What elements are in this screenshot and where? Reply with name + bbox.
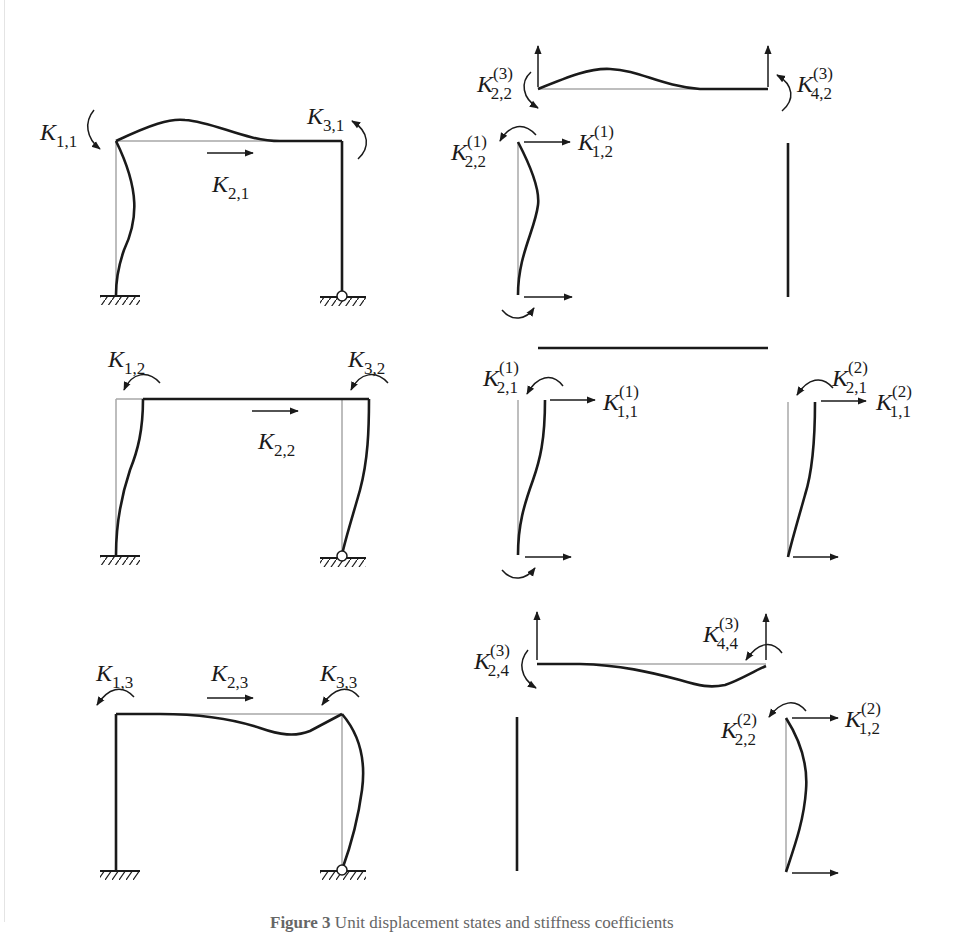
label-k21-1: K(1)2,1 bbox=[482, 358, 519, 397]
moment-arrow-icon bbox=[352, 121, 366, 159]
label-k42-3: K(3)4,2 bbox=[796, 64, 833, 103]
label-k22-3: K(3)2,2 bbox=[476, 64, 513, 103]
label-k12: K1,2 bbox=[107, 346, 145, 378]
label-k21: K2,1 bbox=[211, 171, 249, 203]
moment-arrow-icon bbox=[502, 308, 534, 318]
members-state-1: K(3)2,2 K(3)4,2 K(1)2,2 K(1)1,2 bbox=[450, 46, 833, 318]
pinned-support-icon bbox=[320, 291, 366, 306]
moment-arrow-icon bbox=[769, 703, 806, 717]
fixed-support-icon bbox=[100, 556, 140, 565]
label-k21-2: K(2)2,1 bbox=[831, 358, 868, 397]
moment-arrow-icon bbox=[524, 72, 538, 108]
moment-arrow-icon bbox=[797, 380, 833, 395]
label-k22-2: K(2)2,2 bbox=[720, 710, 757, 749]
pinned-support-icon bbox=[320, 865, 366, 880]
moment-arrow-icon bbox=[500, 127, 536, 141]
label-k12-1: K(1)1,2 bbox=[577, 122, 614, 161]
label-k24-3: K(3)2,4 bbox=[473, 641, 510, 680]
figure-caption: Figure 3 Unit displacement states and st… bbox=[270, 913, 674, 933]
moment-arrow-icon bbox=[777, 75, 791, 111]
frame-state-2: K1,2 K2,2 K3,2 bbox=[100, 346, 388, 567]
moment-arrow-icon bbox=[502, 568, 535, 578]
moment-arrow-icon bbox=[522, 650, 536, 688]
pinned-support-icon bbox=[320, 551, 366, 567]
fixed-support-icon bbox=[100, 296, 140, 305]
label-k22-1: K(1)2,2 bbox=[450, 132, 487, 171]
caption-prefix: Figure 3 bbox=[270, 913, 331, 932]
label-k11-2: K(2)1,1 bbox=[875, 382, 912, 421]
moment-arrow-icon bbox=[527, 378, 563, 394]
label-k31: K3,1 bbox=[306, 103, 344, 135]
members-state-2: K(1)2,1 K(1)1,1 K(2)2,1 K(2)1,1 bbox=[482, 348, 912, 578]
caption-text: Unit displacement states and stiffness c… bbox=[335, 913, 674, 932]
frame-state-3: K1,3 K2,3 K3,3 bbox=[95, 660, 366, 880]
fixed-support-icon bbox=[100, 871, 140, 880]
label-k32: K3,2 bbox=[347, 346, 385, 378]
label-k33: K3,3 bbox=[319, 660, 357, 692]
label-k13: K1,3 bbox=[95, 660, 133, 692]
label-k11: K1,1 bbox=[39, 119, 77, 151]
label-k44-3: K(3)4,4 bbox=[702, 614, 739, 653]
label-k23: K2,3 bbox=[210, 660, 248, 692]
members-state-3: K(3)2,4 K(3)4,4 K(2)2,2 K(2)1,2 bbox=[473, 612, 881, 873]
label-k12-2: K(2)1,2 bbox=[844, 699, 881, 738]
label-k11-1: K(1)1,1 bbox=[602, 382, 639, 421]
frame-state-1: K1,1 K2,1 K3,1 bbox=[39, 103, 366, 306]
moment-arrow-icon bbox=[746, 645, 782, 660]
moment-arrow-icon bbox=[88, 110, 100, 149]
label-k22: K2,2 bbox=[257, 428, 295, 460]
